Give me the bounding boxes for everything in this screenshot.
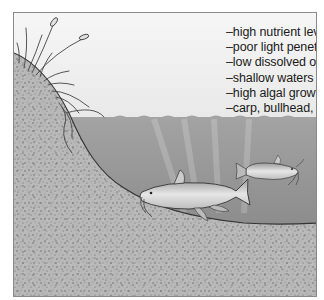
characteristic-item: –carp, bullhead, catfish (226, 101, 317, 116)
characteristics-list: –high nutrient levels –poor light penetr… (226, 25, 317, 116)
characteristic-item: –poor light penetration (226, 40, 317, 55)
characteristic-item: –high algal growth (226, 86, 317, 101)
characteristic-item: –high nutrient levels (226, 25, 317, 40)
characteristic-item: –low dissolved oxygen (226, 55, 317, 70)
characteristic-item: –shallow waters (226, 71, 317, 86)
diagram-frame: –high nutrient levels –poor light penetr… (13, 12, 317, 297)
